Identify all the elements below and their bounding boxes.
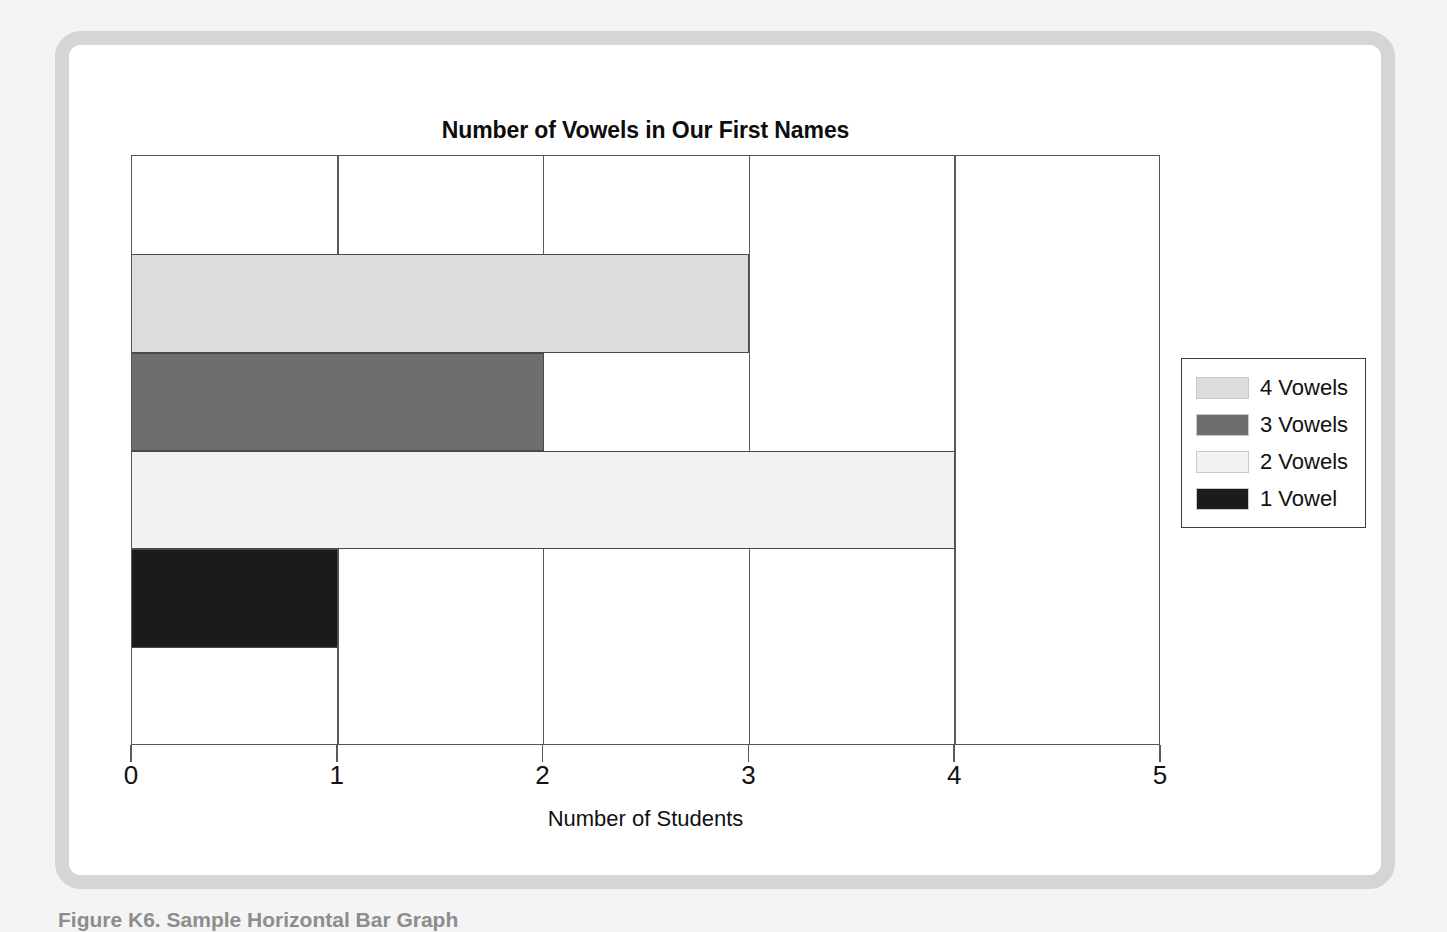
x-tick-label-2: 2 bbox=[513, 760, 573, 791]
legend-swatch-icon bbox=[1196, 451, 1249, 473]
gridline-x-4 bbox=[954, 156, 956, 744]
x-tick-label-5: 5 bbox=[1130, 760, 1190, 791]
legend-item-2-vowels[interactable]: 2 Vowels bbox=[1196, 443, 1365, 480]
legend-item-1-vowel[interactable]: 1 Vowel bbox=[1196, 480, 1365, 517]
bar-3-vowels bbox=[132, 353, 544, 451]
legend-item-label: 3 Vowels bbox=[1260, 412, 1348, 438]
x-tick-label-3: 3 bbox=[718, 760, 778, 791]
gridline-x-3 bbox=[749, 156, 751, 744]
x-axis-title: Number of Students bbox=[131, 806, 1160, 832]
bar-2-vowels bbox=[132, 451, 955, 549]
legend-item-4-vowels[interactable]: 4 Vowels bbox=[1196, 369, 1365, 406]
legend-item-label: 2 Vowels bbox=[1260, 449, 1348, 475]
legend-item-3-vowels[interactable]: 3 Vowels bbox=[1196, 406, 1365, 443]
legend-swatch-icon bbox=[1196, 377, 1249, 399]
x-tick-label-4: 4 bbox=[924, 760, 984, 791]
legend-item-label: 1 Vowel bbox=[1260, 486, 1337, 512]
x-tick-label-1: 1 bbox=[307, 760, 367, 791]
legend-swatch-icon bbox=[1196, 488, 1249, 510]
chart-legend: 4 Vowels3 Vowels2 Vowels1 Vowel bbox=[1181, 358, 1366, 528]
legend-item-label: 4 Vowels bbox=[1260, 375, 1348, 401]
bar-1-vowel bbox=[132, 549, 338, 647]
x-tick-label-0: 0 bbox=[101, 760, 161, 791]
chart-title: Number of Vowels in Our First Names bbox=[131, 117, 1160, 144]
legend-swatch-icon bbox=[1196, 414, 1249, 436]
plot-area bbox=[131, 155, 1160, 745]
bar-4-vowels bbox=[132, 254, 749, 352]
figure-caption: Figure K6. Sample Horizontal Bar Graph bbox=[58, 908, 458, 932]
